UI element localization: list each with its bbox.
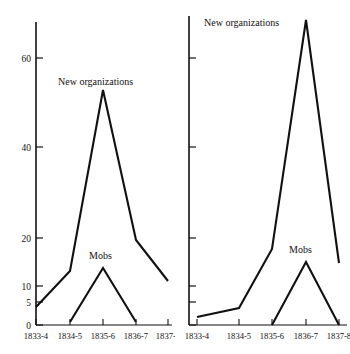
- right-x-tick-label-1837-8: 1837-8: [327, 331, 350, 341]
- left-y-tick-label-0: 0: [26, 321, 31, 331]
- left-y-tick-label-5: 5: [26, 298, 31, 308]
- left-y-tick-labels: 0 5 10 20 40 60: [22, 54, 32, 331]
- left-panel-plot: 0 5 10 20 40 60 1833-4 1834-5 1835-6 18: [0, 0, 175, 354]
- right-x-tick-label-1836-7: 1836-7: [294, 331, 319, 341]
- right-annotation-new-organizations: New organizations: [204, 17, 279, 28]
- left-annotation-mobs: Mobs: [89, 250, 112, 261]
- left-annotation-new-organizations: New organizations: [58, 76, 133, 87]
- left-y-tick-label-60: 60: [22, 54, 32, 64]
- right-panel-plot: 1833-4 1834-5 1835-6 1836-7 1837-8 New o…: [175, 0, 350, 354]
- left-panel: 0 5 10 20 40 60 1833-4 1834-5 1835-6 18: [0, 0, 175, 354]
- left-x-tick-label-1836-7: 1836-7: [124, 331, 149, 341]
- right-x-tick-label-1835-6: 1835-6: [260, 331, 285, 341]
- right-x-tick-label-1833-4: 1833-4: [185, 331, 210, 341]
- left-series-new-organizations: [36, 90, 168, 307]
- left-x-tick-label-1834-5: 1834-5: [58, 331, 82, 341]
- right-panel: 1833-4 1834-5 1835-6 1836-7 1837-8 New o…: [175, 0, 350, 354]
- right-x-tick-marks: [197, 319, 339, 325]
- left-y-tick-label-20: 20: [22, 234, 32, 244]
- left-y-tick-label-40: 40: [22, 143, 32, 153]
- left-x-tick-marks: [36, 319, 168, 325]
- left-x-tick-labels: 1833-4 1834-5 1835-6 1836-7 1837-8: [24, 331, 175, 341]
- right-series-new-organizations: [197, 20, 339, 317]
- left-y-tick-marks: [36, 58, 43, 325]
- two-panel-line-chart-figure: 0 5 10 20 40 60 1833-4 1834-5 1835-6 18: [0, 0, 350, 354]
- right-series-mobs: [272, 262, 339, 325]
- right-x-tick-label-1834-5: 1834-5: [227, 331, 251, 341]
- left-series-mobs: [70, 268, 136, 322]
- left-x-tick-label-1837-8: 1837-8: [156, 331, 175, 341]
- right-annotation-mobs: Mobs: [289, 244, 312, 255]
- right-x-tick-labels: 1833-4 1834-5 1835-6 1836-7 1837-8: [185, 331, 350, 341]
- left-x-tick-label-1835-6: 1835-6: [91, 331, 116, 341]
- left-x-tick-label-1833-4: 1833-4: [24, 331, 49, 341]
- left-y-tick-label-10: 10: [22, 282, 32, 292]
- right-y-tick-marks: [189, 58, 196, 325]
